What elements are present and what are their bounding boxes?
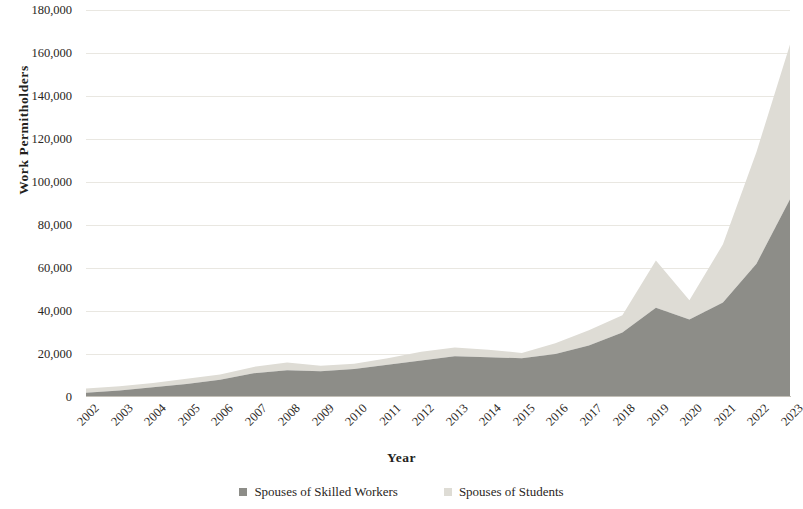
x-axis-tick-label: 2016: [544, 401, 572, 429]
y-axis-tick-label: 120,000: [31, 132, 72, 147]
chart-legend: Spouses of Skilled Workers Spouses of St…: [0, 484, 803, 500]
x-axis-tick-label: 2013: [443, 401, 471, 429]
x-axis-tick-label: 2010: [343, 401, 371, 429]
legend-label: Spouses of Students: [459, 484, 564, 500]
area-series-group: [86, 44, 790, 397]
x-axis-tick-label: 2011: [376, 401, 404, 429]
legend-item-students[interactable]: Spouses of Students: [444, 484, 564, 500]
x-axis-tick-label: 2019: [644, 401, 672, 429]
x-axis-tick-label: 2005: [175, 401, 203, 429]
y-axis-tick-label: 20,000: [38, 347, 72, 362]
x-axis-tick-label: 2006: [208, 401, 236, 429]
legend-item-skilled-workers[interactable]: Spouses of Skilled Workers: [239, 484, 398, 500]
x-axis-tick-label: 2014: [477, 401, 505, 429]
x-axis-tick-label: 2022: [745, 401, 773, 429]
legend-swatch-icon: [444, 488, 452, 496]
y-axis-tick-label: 40,000: [38, 304, 72, 319]
x-axis-tick-label: 2003: [108, 401, 136, 429]
x-axis-tick-label: 2021: [711, 401, 739, 429]
y-axis-tick-label: 60,000: [38, 261, 72, 276]
x-axis-tick-label: 2023: [778, 401, 803, 429]
legend-label: Spouses of Skilled Workers: [254, 484, 398, 500]
x-axis-line: [86, 396, 791, 397]
legend-swatch-icon: [239, 488, 247, 496]
x-axis-tick-label: 2015: [510, 401, 538, 429]
x-axis-title: Year: [0, 450, 803, 466]
x-axis-tick-label: 2017: [577, 401, 605, 429]
x-axis-tick-label: 2008: [275, 401, 303, 429]
x-axis-tick-labels: 2002200320042005200620072008200920102011…: [86, 399, 790, 451]
x-axis-tick-label: 2007: [242, 401, 270, 429]
x-axis-tick-label: 2020: [678, 401, 706, 429]
y-axis-tick-label: 80,000: [38, 218, 72, 233]
y-axis-tick-label: 0: [66, 390, 72, 405]
area-chart: Work Permitholders 020,00040,00060,00080…: [0, 0, 803, 509]
y-axis-tick-label: 180,000: [31, 3, 72, 18]
plot-svg: [86, 10, 790, 397]
y-axis-tick-labels: 020,00040,00060,00080,000100,000120,0001…: [0, 0, 80, 409]
x-axis-tick-label: 2018: [611, 401, 639, 429]
x-axis-tick-label: 2009: [309, 401, 337, 429]
x-axis-tick-label: 2012: [410, 401, 438, 429]
y-axis-tick-label: 140,000: [31, 89, 72, 104]
y-axis-tick-label: 160,000: [31, 46, 72, 61]
y-axis-tick-label: 100,000: [31, 175, 72, 190]
plot-area: [86, 10, 790, 397]
x-axis-tick-label: 2004: [141, 401, 169, 429]
